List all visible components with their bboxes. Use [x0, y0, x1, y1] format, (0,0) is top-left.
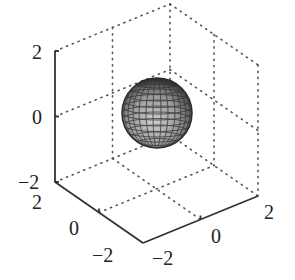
- x-tick-neg2: −2: [152, 248, 173, 268]
- sphere-surface: [122, 71, 192, 148]
- z-tick-neg2: −2: [18, 172, 39, 192]
- y-tick-0: 0: [69, 218, 79, 238]
- x-tick-0: 0: [211, 226, 221, 246]
- z-tick-0: 0: [32, 107, 42, 127]
- y-tick-2: 2: [32, 192, 42, 212]
- x-tick-2: 2: [264, 202, 274, 222]
- z-tick-2: 2: [32, 42, 42, 62]
- y-tick-neg2: −2: [92, 245, 113, 265]
- sphere-3d-plot: [0, 0, 295, 280]
